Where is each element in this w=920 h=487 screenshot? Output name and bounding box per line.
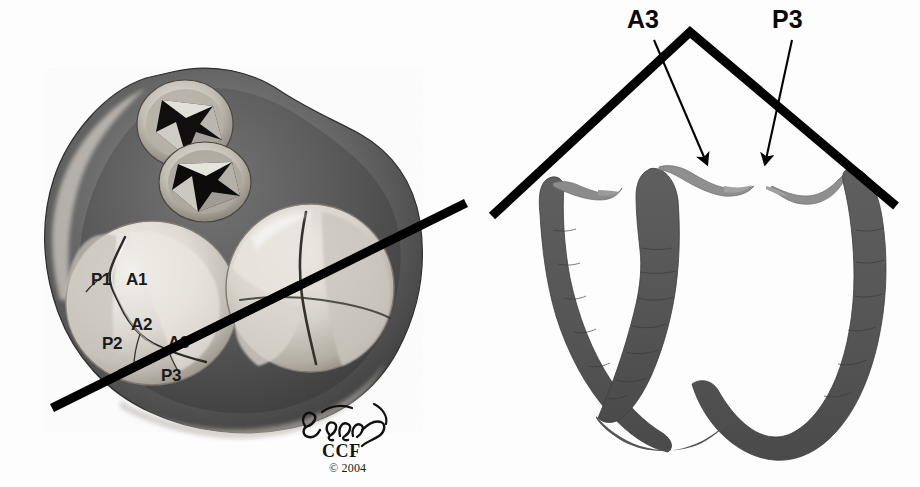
- aortic-valve-orifice: [159, 142, 251, 222]
- label-a3-cross-section: A3: [627, 5, 659, 33]
- label-p2: P2: [102, 334, 122, 353]
- label-p1: P1: [91, 270, 111, 289]
- medical-illustration-figure: P1 A1 A2 P2 A3 P3 CCF: [0, 0, 920, 487]
- label-p3-cross-section: P3: [772, 5, 803, 33]
- illustration-canvas: P1 A1 A2 P2 A3 P3 CCF: [0, 0, 920, 487]
- tricuspid-valve: [226, 204, 394, 372]
- label-a1: A1: [126, 270, 147, 289]
- label-a2: A2: [131, 315, 152, 334]
- signature-institution: CCF: [322, 441, 361, 461]
- label-p3: P3: [161, 366, 181, 385]
- signature-copyright: © 2004: [329, 461, 366, 475]
